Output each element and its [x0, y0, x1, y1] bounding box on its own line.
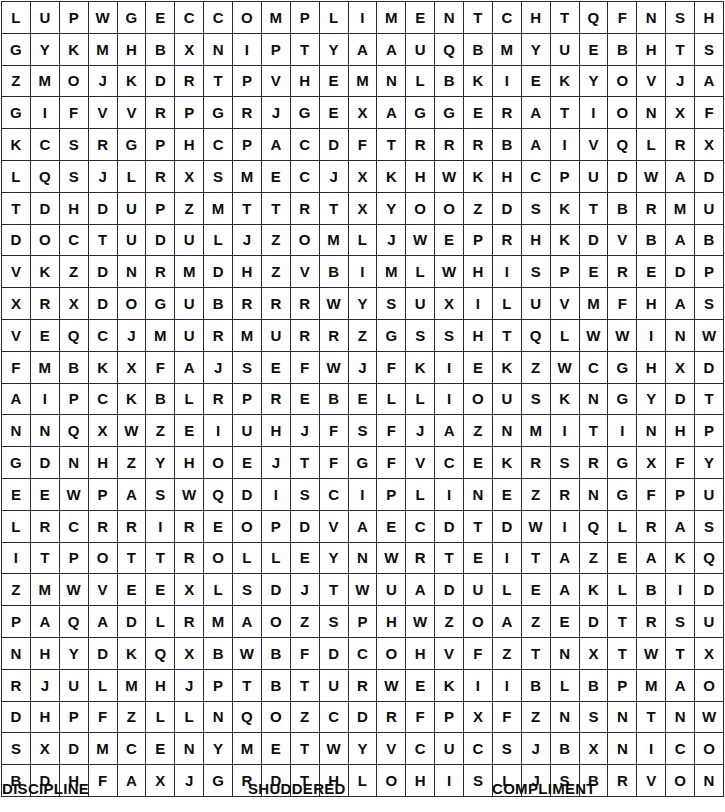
grid-cell[interactable]: P [666, 478, 695, 510]
grid-cell[interactable]: B [261, 637, 290, 669]
grid-cell[interactable]: H [521, 2, 550, 34]
grid-cell[interactable]: H [377, 606, 406, 638]
grid-cell[interactable]: W [608, 319, 637, 351]
grid-cell[interactable]: T [492, 319, 521, 351]
grid-cell[interactable]: X [435, 288, 464, 320]
grid-cell[interactable]: O [608, 65, 637, 97]
grid-cell[interactable]: F [290, 637, 319, 669]
grid-cell[interactable]: K [492, 351, 521, 383]
grid-cell[interactable]: Y [146, 447, 175, 479]
grid-cell[interactable]: L [492, 288, 521, 320]
grid-cell[interactable]: M [146, 319, 175, 351]
grid-cell[interactable]: D [2, 701, 31, 733]
grid-cell[interactable]: A [492, 606, 521, 638]
grid-cell[interactable]: V [377, 733, 406, 765]
grid-cell[interactable]: M [30, 351, 59, 383]
grid-cell[interactable]: Q [59, 415, 88, 447]
grid-cell[interactable]: V [550, 288, 579, 320]
grid-cell[interactable]: T [2, 192, 31, 224]
grid-cell[interactable]: N [204, 33, 233, 65]
grid-cell[interactable]: Z [435, 606, 464, 638]
grid-cell[interactable]: N [2, 637, 31, 669]
grid-cell[interactable]: I [492, 669, 521, 701]
grid-cell[interactable]: E [2, 478, 31, 510]
grid-cell[interactable]: R [637, 606, 666, 638]
grid-cell[interactable]: J [348, 351, 377, 383]
grid-cell[interactable]: V [579, 129, 608, 161]
grid-cell[interactable]: V [319, 510, 348, 542]
grid-cell[interactable]: V [2, 319, 31, 351]
grid-cell[interactable]: G [608, 351, 637, 383]
grid-cell[interactable]: X [59, 288, 88, 320]
grid-cell[interactable]: W [521, 510, 550, 542]
grid-cell[interactable]: W [406, 224, 435, 256]
grid-cell[interactable]: I [30, 383, 59, 415]
grid-cell[interactable]: D [30, 192, 59, 224]
grid-cell[interactable]: R [146, 256, 175, 288]
grid-cell[interactable]: O [30, 224, 59, 256]
grid-cell[interactable]: P [146, 192, 175, 224]
grid-cell[interactable]: Q [521, 319, 550, 351]
grid-cell[interactable]: E [579, 33, 608, 65]
grid-cell[interactable]: I [348, 2, 377, 34]
grid-cell[interactable]: E [521, 574, 550, 606]
grid-cell[interactable]: H [406, 637, 435, 669]
grid-cell[interactable]: G [2, 97, 31, 129]
grid-cell[interactable]: E [261, 733, 290, 765]
grid-cell[interactable]: I [348, 256, 377, 288]
grid-cell[interactable]: K [492, 447, 521, 479]
grid-cell[interactable]: C [175, 2, 204, 34]
grid-cell[interactable]: J [290, 574, 319, 606]
grid-cell[interactable]: I [464, 669, 493, 701]
grid-cell[interactable]: R [406, 129, 435, 161]
grid-cell[interactable]: D [695, 351, 724, 383]
grid-cell[interactable]: Y [695, 447, 724, 479]
grid-cell[interactable]: D [666, 256, 695, 288]
grid-cell[interactable]: B [146, 33, 175, 65]
grid-cell[interactable]: F [406, 701, 435, 733]
grid-cell[interactable]: O [88, 542, 117, 574]
grid-cell[interactable]: R [2, 669, 31, 701]
grid-cell[interactable]: Q [59, 606, 88, 638]
grid-cell[interactable]: T [319, 192, 348, 224]
grid-cell[interactable]: X [579, 637, 608, 669]
grid-cell[interactable]: K [579, 574, 608, 606]
grid-cell[interactable]: G [608, 383, 637, 415]
grid-cell[interactable]: I [233, 33, 262, 65]
grid-cell[interactable]: L [146, 606, 175, 638]
grid-cell[interactable]: H [464, 319, 493, 351]
grid-cell[interactable]: U [435, 733, 464, 765]
grid-cell[interactable]: P [59, 701, 88, 733]
grid-cell[interactable]: R [88, 129, 117, 161]
grid-cell[interactable]: R [290, 288, 319, 320]
grid-cell[interactable]: H [666, 415, 695, 447]
grid-cell[interactable]: J [233, 224, 262, 256]
grid-cell[interactable]: Z [521, 351, 550, 383]
grid-cell[interactable]: G [146, 288, 175, 320]
grid-cell[interactable]: P [233, 383, 262, 415]
grid-cell[interactable]: B [521, 669, 550, 701]
grid-cell[interactable]: U [117, 224, 146, 256]
grid-cell[interactable]: N [2, 415, 31, 447]
grid-cell[interactable]: Y [637, 383, 666, 415]
grid-cell[interactable]: I [146, 510, 175, 542]
grid-cell[interactable]: A [695, 65, 724, 97]
grid-cell[interactable]: U [406, 288, 435, 320]
grid-cell[interactable]: T [233, 192, 262, 224]
grid-cell[interactable]: U [59, 669, 88, 701]
grid-cell[interactable]: W [319, 288, 348, 320]
grid-cell[interactable]: Z [117, 447, 146, 479]
grid-cell[interactable]: I [204, 415, 233, 447]
grid-cell[interactable]: K [550, 224, 579, 256]
grid-cell[interactable]: P [348, 606, 377, 638]
grid-cell[interactable]: O [233, 510, 262, 542]
grid-cell[interactable]: V [608, 224, 637, 256]
word-list-item-1[interactable]: DISCIPLINE [2, 780, 89, 797]
grid-cell[interactable]: N [59, 447, 88, 479]
grid-cell[interactable]: M [175, 256, 204, 288]
grid-cell[interactable]: W [637, 637, 666, 669]
grid-cell[interactable]: S [695, 288, 724, 320]
grid-cell[interactable]: V [290, 256, 319, 288]
grid-cell[interactable]: Y [59, 637, 88, 669]
grid-cell[interactable]: T [146, 542, 175, 574]
